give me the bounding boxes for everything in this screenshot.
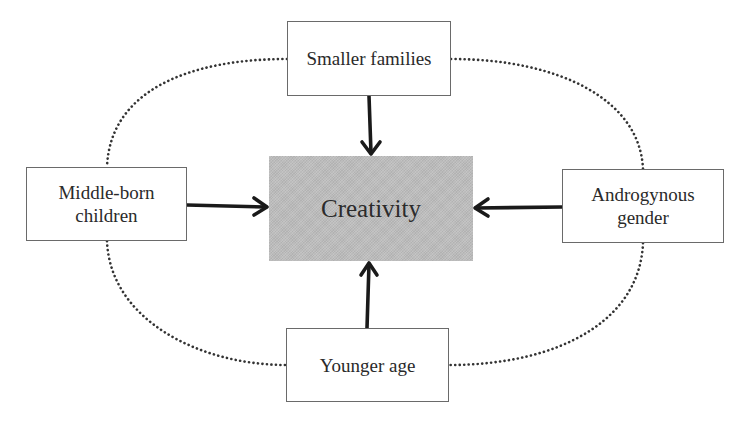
middle-born-label-line2: children bbox=[58, 204, 154, 227]
creativity-diagram: Creativity Smaller families Middle-born … bbox=[0, 0, 742, 422]
younger-age-node: Younger age bbox=[286, 328, 449, 402]
smaller-families-node: Smaller families bbox=[287, 21, 451, 96]
smaller-families-label: Smaller families bbox=[306, 47, 431, 70]
androgynous-label-line1: Androgynous bbox=[591, 183, 694, 206]
arrow-top-to-center bbox=[362, 96, 380, 154]
androgynous-gender-node: Androgynous gender bbox=[562, 169, 724, 243]
middle-born-children-node: Middle-born children bbox=[26, 167, 187, 241]
middle-born-label-line1: Middle-born bbox=[58, 181, 154, 204]
creativity-node: Creativity bbox=[269, 156, 473, 261]
androgynous-label-line2: gender bbox=[591, 206, 694, 229]
creativity-label: Creativity bbox=[321, 197, 421, 220]
younger-age-label: Younger age bbox=[320, 354, 416, 377]
arrow-bottom-to-center bbox=[361, 263, 377, 328]
arrow-right-to-center bbox=[475, 199, 562, 216]
arrow-left-to-center bbox=[187, 198, 267, 215]
